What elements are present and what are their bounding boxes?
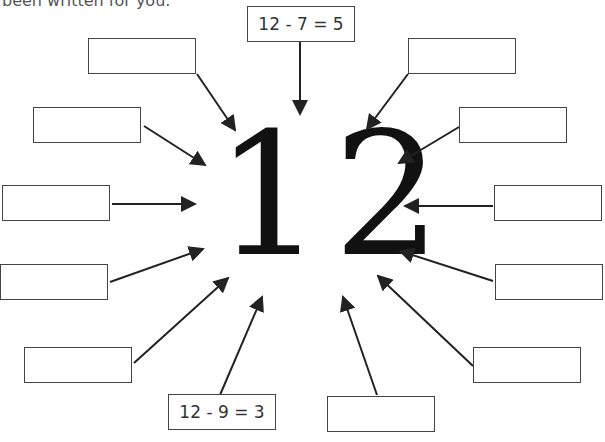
answer-box-top[interactable]: 12 - 7 = 5 xyxy=(247,6,355,42)
answer-box-lower-right[interactable] xyxy=(473,347,581,383)
answer-box-right-1[interactable] xyxy=(494,185,602,221)
answer-box-upper-left-2[interactable] xyxy=(33,107,141,143)
answer-box-bottom-right[interactable] xyxy=(327,396,435,432)
answer-box-lower-left[interactable] xyxy=(24,347,132,383)
answer-box-bottom-left[interactable]: 12 - 9 = 3 xyxy=(168,394,276,430)
answer-box-upper-right-2[interactable] xyxy=(459,107,567,143)
answer-box-right-2[interactable] xyxy=(495,264,603,300)
answer-box-upper-right-1[interactable] xyxy=(408,38,516,74)
answer-box-left-1[interactable] xyxy=(2,185,110,221)
answer-box-left-2[interactable] xyxy=(0,264,108,300)
answer-box-upper-left-1[interactable] xyxy=(88,38,196,74)
